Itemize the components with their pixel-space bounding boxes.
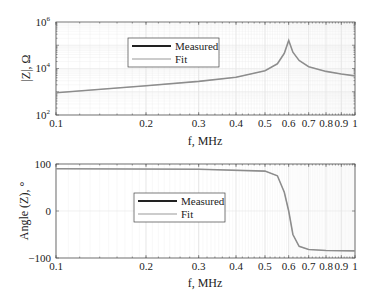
xtick-label: 0.7	[302, 117, 316, 129]
xtick-label: 1	[352, 117, 358, 129]
xtick-label: 0.2	[139, 260, 153, 272]
xtick-label: 0.5	[258, 260, 272, 272]
xtick-label: 0.9	[334, 260, 348, 272]
top-legend: Measured Fit	[128, 38, 219, 67]
bottom-ytick-neg100: −100	[28, 252, 51, 264]
xtick-label: 0.1	[49, 260, 63, 272]
xtick-label: 0.8	[319, 117, 333, 129]
xtick-label: 0.6	[282, 260, 296, 272]
xtick-label: 0.4	[229, 260, 243, 272]
top-ytick-1e6: 106	[36, 15, 51, 28]
xtick-label: 0.3	[192, 117, 206, 129]
bottom-ylabel: Angle (Z), °	[17, 182, 31, 241]
xtick-label: 0.6	[282, 117, 296, 129]
xtick-label: 0.3	[192, 260, 206, 272]
bottom-legend-measured-label: Measured	[181, 195, 225, 207]
top-legend-fit-label: Fit	[175, 53, 187, 65]
top-xtick-labels: 0.10.20.30.40.50.60.70.80.91	[49, 117, 358, 129]
xtick-label: 0.1	[49, 117, 63, 129]
bottom-legend: Measured Fit	[134, 193, 225, 222]
top-legend-measured-label: Measured	[175, 40, 219, 52]
bottom-ytick-100: 100	[35, 158, 52, 170]
bottom-xlabel: f, MHz	[188, 276, 223, 290]
bottom-ytick-0: 0	[46, 205, 52, 217]
xtick-label: 0.9	[334, 117, 348, 129]
bottom-legend-fit-label: Fit	[181, 208, 193, 220]
top-ytick-1e4: 104	[36, 61, 51, 74]
bottom-plot: 100 0 −100 0.10.20.30.40.50.60.70.80.91 …	[17, 158, 358, 290]
top-xlabel: f, MHz	[188, 134, 223, 148]
xtick-label: 0.5	[258, 117, 272, 129]
xtick-label: 0.8	[319, 260, 333, 272]
bottom-xtick-labels: 0.10.20.30.40.50.60.70.80.91	[49, 260, 358, 272]
figure: 106 104 102 0.10.20.30.40.50.60.70.80.91…	[0, 0, 373, 299]
top-ylabel: |Z|, Ω	[19, 54, 33, 81]
xtick-label: 1	[352, 260, 358, 272]
top-plot: 106 104 102 0.10.20.30.40.50.60.70.80.91…	[19, 15, 358, 148]
xtick-label: 0.4	[229, 117, 243, 129]
xtick-label: 0.7	[302, 260, 316, 272]
xtick-label: 0.2	[139, 117, 153, 129]
